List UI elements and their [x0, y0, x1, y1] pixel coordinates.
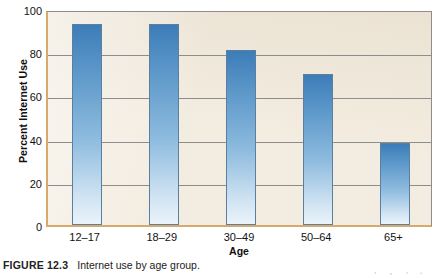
figure-container: Percent Internet Use 020406080100 12–171… — [0, 0, 441, 278]
bars-group — [48, 12, 431, 225]
bar — [380, 143, 410, 225]
y-tick-label: 40 — [12, 135, 42, 147]
x-tick-label: 65+ — [384, 231, 403, 243]
x-tick-label: 30–49 — [224, 231, 255, 243]
y-axis-tick-labels: 020406080100 — [12, 0, 42, 250]
bar — [72, 24, 102, 225]
bar — [149, 24, 179, 225]
bar-chart: Percent Internet Use 020406080100 12–171… — [0, 0, 441, 250]
figure-caption-text: Internet use by age group. — [77, 259, 200, 271]
bar — [303, 74, 333, 225]
figure-caption-label: FIGURE 12.3 — [3, 259, 68, 271]
x-tick-label: 12–17 — [69, 231, 100, 243]
y-tick-label: 20 — [12, 178, 42, 190]
figure-caption: FIGURE 12.3Internet use by age group. — [3, 259, 333, 271]
x-tick-label: 50–64 — [301, 231, 332, 243]
x-axis-title: Age — [46, 245, 432, 257]
plot-area — [46, 11, 432, 227]
y-tick-label: 100 — [12, 5, 42, 17]
scan-artifact — [372, 270, 428, 275]
x-tick-label: 18–29 — [147, 231, 178, 243]
y-tick-label: 80 — [12, 48, 42, 60]
y-tick-label: 60 — [12, 91, 42, 103]
bar — [226, 50, 256, 225]
y-tick-label: 0 — [12, 221, 42, 233]
